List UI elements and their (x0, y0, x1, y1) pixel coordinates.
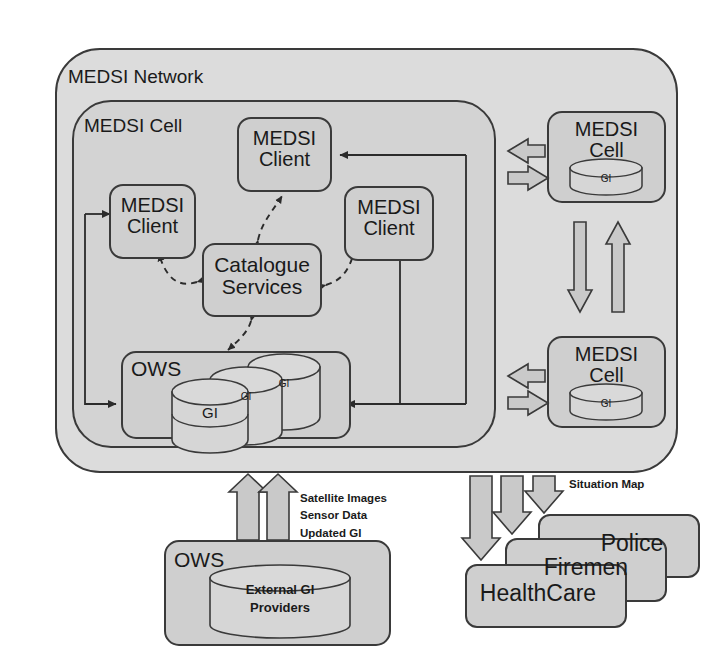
diagram-canvas: MEDSI Network MEDSI Cell MEDSI Client ME… (0, 0, 716, 670)
ows-external-cylinder (210, 565, 350, 638)
diagram-vector-layer (0, 0, 716, 670)
client-top-box[interactable] (238, 118, 331, 191)
client-left-box[interactable] (110, 185, 195, 258)
ows-cylinder-front (172, 379, 248, 453)
outbound-arrow-3 (525, 476, 563, 513)
outbound-arrow-2 (493, 476, 531, 534)
remote-cell-top-cylinder (570, 159, 642, 195)
remote-cell-bottom-cylinder (570, 384, 642, 420)
responder-healthcare-box[interactable] (466, 565, 626, 627)
inbound-arrow-2 (259, 474, 297, 540)
catalogue-services-box[interactable] (203, 244, 321, 316)
inbound-arrow-1 (229, 474, 267, 540)
client-right-box[interactable] (345, 187, 433, 260)
outbound-arrow-1 (462, 476, 500, 560)
